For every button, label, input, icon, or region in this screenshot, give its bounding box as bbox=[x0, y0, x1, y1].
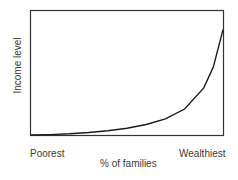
x-axis-min-label: Poorest bbox=[30, 148, 64, 159]
y-axis-label: Income level bbox=[12, 36, 23, 96]
x-axis-max-label: Wealthiest bbox=[179, 148, 226, 159]
x-axis-label: % of families bbox=[100, 158, 157, 169]
income-curve bbox=[31, 30, 223, 135]
plot-frame bbox=[31, 11, 224, 136]
